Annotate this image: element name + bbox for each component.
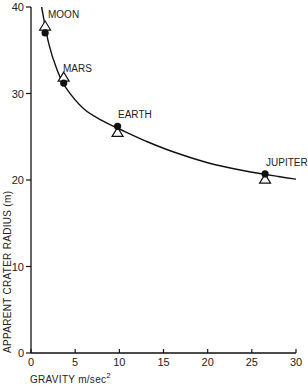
x-tick-labels: 051015202530	[28, 356, 302, 368]
chart: 010203040 051015202530 MOON MARS EARTH J…	[0, 0, 308, 392]
x-axis-title-sup: 2	[106, 371, 111, 380]
circle-marker-mars	[60, 80, 67, 87]
axes	[31, 7, 296, 353]
circle-marker-moon	[42, 29, 49, 36]
x-axis-title: GRAVITY m/sec2	[30, 371, 111, 385]
y-ticks	[26, 7, 31, 353]
y-tick-label: 30	[12, 88, 24, 100]
y-axis-title: APPARENT CRATER RADIUS (m)	[2, 191, 13, 353]
label-moon: MOON	[48, 9, 79, 20]
x-tick-label: 0	[28, 356, 34, 368]
y-tick-labels: 010203040	[12, 1, 24, 359]
label-jupiter: JUPITER	[266, 157, 308, 168]
triangle-marker-moon	[40, 21, 51, 30]
x-tick-label: 30	[290, 356, 302, 368]
x-tick-label: 25	[246, 356, 258, 368]
x-tick-label: 5	[72, 356, 78, 368]
x-axis-title-text: GRAVITY m/sec	[30, 374, 106, 385]
label-earth: EARTH	[118, 109, 152, 120]
triangle-markers	[40, 21, 271, 183]
y-tick-label: 0	[18, 347, 24, 359]
fit-curve	[42, 7, 296, 179]
x-tick-label: 15	[157, 356, 169, 368]
circle-marker-jupiter	[261, 170, 268, 177]
x-tick-label: 10	[113, 356, 125, 368]
label-mars: MARS	[63, 63, 92, 74]
x-tick-label: 20	[202, 356, 214, 368]
y-tick-label: 10	[12, 261, 24, 273]
y-tick-label: 20	[12, 174, 24, 186]
circle-marker-earth	[114, 123, 121, 130]
circle-markers	[42, 29, 269, 177]
y-tick-label: 40	[12, 1, 24, 13]
